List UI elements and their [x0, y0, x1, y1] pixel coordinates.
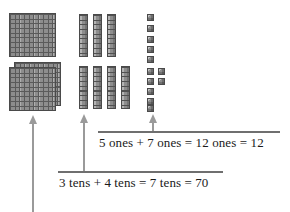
tens-sum-rule	[58, 171, 223, 173]
ones-unit-bottom-3	[147, 78, 154, 85]
tens-rod-top-3	[107, 14, 116, 57]
tens-rod-bottom-4	[121, 66, 130, 109]
ones-sum-caption: 5 ones + 7 ones = 12 ones = 12	[99, 135, 284, 150]
ones-unit-top-3	[147, 36, 154, 43]
tens-arrow	[79, 114, 89, 173]
ones-sum-rule	[98, 131, 280, 133]
ones-unit-bottom-7	[147, 105, 154, 112]
ones-unit-top-4	[147, 46, 154, 53]
tens-rod-bottom-3	[107, 66, 116, 109]
ones-unit-bottom-6	[147, 98, 154, 105]
ones-unit-bottom-2	[158, 68, 165, 75]
ones-unit-bottom-1	[147, 68, 154, 75]
ones-unit-bottom-5	[147, 88, 154, 95]
tens-sum-caption: 3 tens + 4 tens = 7 tens = 70	[59, 175, 229, 190]
hundreds-flat-bottom-front	[9, 67, 56, 111]
tens-rod-top-2	[93, 14, 102, 57]
hundreds-flat-top-1	[9, 13, 56, 57]
base-ten-blocks-diagram: 5 ones + 7 ones = 12 ones = 12 3 tens + …	[0, 0, 290, 212]
ones-unit-top-2	[147, 25, 154, 32]
ones-unit-bottom-4	[158, 78, 165, 85]
ones-unit-top-1	[147, 14, 154, 21]
ones-unit-top-5	[147, 56, 154, 63]
tens-rod-bottom-1	[79, 66, 88, 109]
hundreds-arrow	[28, 115, 38, 212]
tens-rod-top-1	[79, 14, 88, 57]
tens-rod-bottom-2	[93, 66, 102, 109]
